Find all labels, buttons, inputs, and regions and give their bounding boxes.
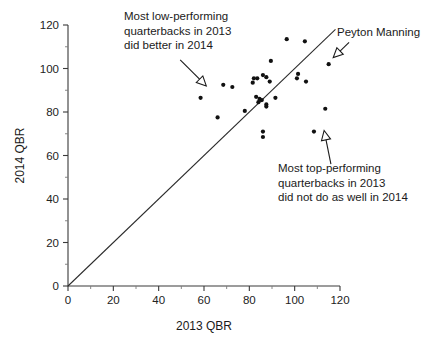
data-point bbox=[295, 76, 299, 80]
data-point bbox=[264, 104, 268, 108]
identity-reference-line bbox=[68, 29, 335, 286]
x-tick-label: 20 bbox=[107, 294, 120, 306]
data-point bbox=[221, 83, 225, 87]
annotation-line: did not do as well in 2014 bbox=[278, 191, 408, 203]
data-point bbox=[260, 98, 264, 102]
y-tick-label: 120 bbox=[40, 19, 59, 31]
data-point bbox=[230, 85, 234, 89]
y-axis-title: 2014 QBR bbox=[13, 127, 27, 183]
data-point bbox=[261, 129, 265, 133]
annotation-line: did better in 2014 bbox=[124, 39, 213, 51]
data-point bbox=[264, 75, 268, 79]
arrow-shaft bbox=[180, 60, 199, 79]
annotation-line: Peyton Manning bbox=[337, 26, 420, 38]
data-point bbox=[269, 59, 273, 63]
x-axis-title: 2013 QBR bbox=[176, 319, 232, 333]
annotation-line: quarterbacks in 2013 bbox=[278, 177, 385, 189]
data-point bbox=[327, 62, 331, 66]
arrow-shaft bbox=[326, 140, 331, 164]
annotations: Most low-performingquarterbacks in 2013d… bbox=[124, 10, 420, 203]
data-point bbox=[243, 109, 247, 113]
data-point bbox=[255, 76, 259, 80]
data-point bbox=[273, 96, 277, 100]
annotation-top-performers: Most top-performingquarterbacks in 2013d… bbox=[278, 130, 408, 203]
x-tick-label: 0 bbox=[65, 294, 71, 306]
x-tick-label: 120 bbox=[330, 294, 349, 306]
x-tick-label: 80 bbox=[243, 294, 256, 306]
scatter-chart: 020406080100120020406080100120 Most low-… bbox=[0, 0, 434, 343]
data-point bbox=[312, 129, 316, 133]
identity-line bbox=[68, 29, 335, 286]
annotation-peyton-manning: Peyton Manning bbox=[333, 26, 420, 58]
x-tick-label: 40 bbox=[152, 294, 165, 306]
annotation-line: Most top-performing bbox=[278, 162, 381, 174]
annotation-line: Most low-performing bbox=[124, 10, 228, 22]
data-point bbox=[285, 37, 289, 41]
y-tick-label: 60 bbox=[46, 150, 59, 162]
data-point bbox=[216, 115, 220, 119]
arrow-head-icon bbox=[322, 130, 331, 140]
data-point bbox=[303, 39, 307, 43]
data-point bbox=[199, 96, 203, 100]
data-point bbox=[296, 72, 300, 76]
plot-canvas: 020406080100120020406080100120 Most low-… bbox=[0, 0, 434, 343]
y-tick-label: 40 bbox=[46, 193, 59, 205]
y-tick-label: 20 bbox=[46, 237, 59, 249]
y-tick-label: 100 bbox=[40, 63, 59, 75]
data-point bbox=[261, 135, 265, 139]
data-point bbox=[323, 107, 327, 111]
x-tick-label: 100 bbox=[285, 294, 304, 306]
y-tick-label: 0 bbox=[53, 280, 59, 292]
annotation-line: quarterbacks in 2013 bbox=[124, 25, 231, 37]
data-point bbox=[268, 79, 272, 83]
arrow-shaft bbox=[340, 42, 349, 51]
data-point bbox=[304, 79, 308, 83]
y-tick-label: 80 bbox=[46, 106, 59, 118]
x-tick-label: 60 bbox=[198, 294, 211, 306]
data-point bbox=[251, 81, 255, 85]
annotation-low-performers: Most low-performingquarterbacks in 2013d… bbox=[124, 10, 231, 86]
